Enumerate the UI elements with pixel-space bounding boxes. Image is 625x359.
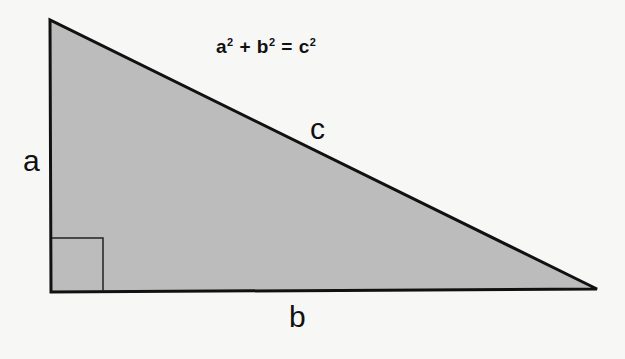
side-label-a: a: [23, 146, 40, 176]
side-label-b: b: [289, 302, 306, 332]
triangle-shape: [50, 20, 597, 292]
pythagorean-formula: a2 + b2 = c2: [216, 37, 316, 56]
side-label-c: c: [310, 114, 325, 144]
